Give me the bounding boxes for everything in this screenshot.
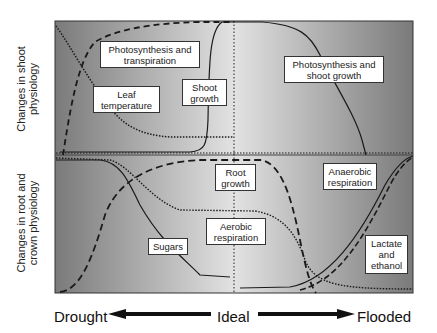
label-shoot-growth: Shootgrowth: [182, 79, 227, 106]
label-leaf-temperature: Leaftemperature: [93, 86, 160, 113]
x-label-flooded: Flooded: [357, 308, 411, 325]
label-anaerobic-respiration: Anaerobicrespiration: [323, 163, 377, 190]
y-label-root: Changes in root and crown physiology: [15, 160, 41, 286]
label-photosynthesis-shoot-growth: Photosynthesis andshoot growth: [284, 56, 384, 83]
label-root-growth: Rootgrowth: [215, 164, 256, 191]
label-photosynthesis-transpiration: Photosynthesis andtranspiration: [100, 41, 200, 68]
arrow-left-icon: [108, 309, 126, 319]
label-aerobic-respiration: Aerobicrespiration: [206, 218, 266, 245]
diagram: Changes in shoot physiology Changes in r…: [0, 0, 437, 333]
arrow-right-icon: [337, 309, 355, 319]
y-label-shoot: Changes in shoot physiology: [15, 34, 41, 144]
x-label-drought: Drought: [54, 308, 107, 325]
x-label-ideal: Ideal: [217, 308, 250, 325]
label-sugars: Sugars: [148, 238, 188, 255]
label-lactate-ethanol: Lactateandethanol: [365, 235, 408, 274]
